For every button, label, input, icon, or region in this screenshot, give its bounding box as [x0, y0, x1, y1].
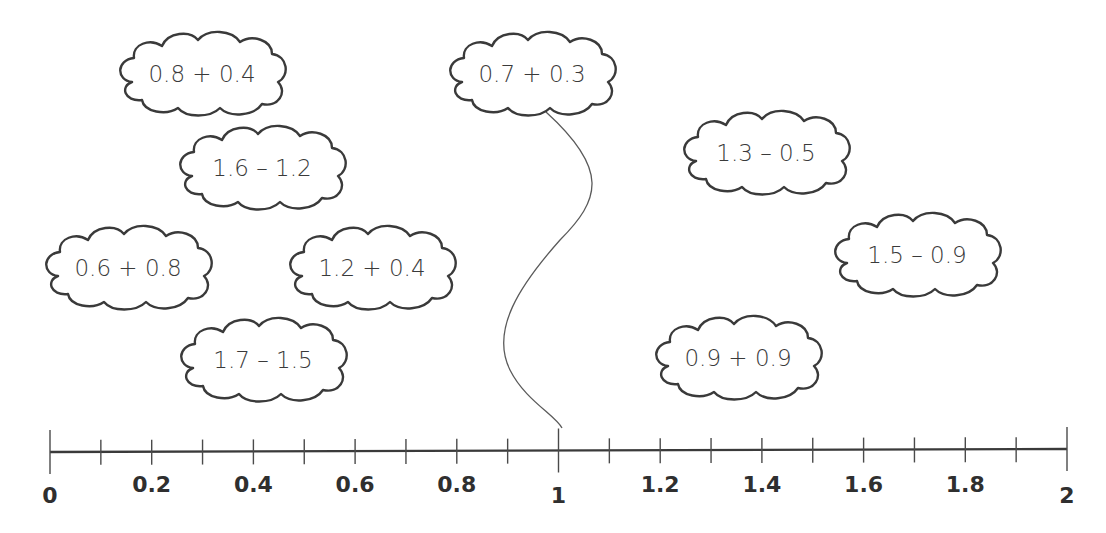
tick-labels: 00.20.40.60.811.21.41.61.82: [42, 472, 1074, 508]
tick-label: 0.6: [336, 472, 375, 497]
cloud-c5: 0.6 + 0.8: [46, 226, 211, 310]
tick-marks: [50, 427, 1067, 474]
tick-label: 1.8: [946, 472, 985, 497]
connector-line: [504, 112, 592, 428]
cloud-c1: 0.8 + 0.4: [120, 32, 285, 116]
number-line: 00.20.40.60.811.21.41.61.82: [42, 427, 1074, 508]
cloud-expression: 0.7 + 0.3: [478, 61, 585, 87]
cloud-expression: 1.7 – 1.5: [213, 347, 312, 373]
tick-label: 1.2: [641, 472, 680, 497]
cloud-expression: 1.2 + 0.4: [318, 255, 425, 281]
cloud-c8: 1.7 – 1.5: [181, 318, 346, 402]
cloud-c2: 0.7 + 0.3: [450, 32, 615, 116]
tick-label: 1: [551, 483, 566, 508]
cloud-c9: 0.9 + 0.9: [656, 316, 821, 400]
cloud-expressions: 0.8 + 0.40.7 + 0.31.6 – 1.21.3 – 0.50.6 …: [46, 32, 1000, 402]
cloud-expression: 1.5 – 0.9: [867, 242, 966, 268]
tick-label: 0: [42, 483, 57, 508]
tick-label: 2: [1059, 483, 1074, 508]
tick-label: 1.4: [742, 472, 781, 497]
cloud-expression: 1.3 – 0.5: [716, 140, 815, 166]
cloud-c7: 1.5 – 0.9: [835, 213, 1000, 297]
tick-label: 1.6: [844, 472, 883, 497]
cloud-expression: 0.9 + 0.9: [684, 345, 791, 371]
tick-label: 0.4: [234, 472, 273, 497]
cloud-expression: 0.8 + 0.4: [148, 61, 255, 87]
cloud-c6: 1.2 + 0.4: [290, 226, 455, 310]
tick-label: 0.8: [437, 472, 476, 497]
cloud-c4: 1.3 – 0.5: [684, 111, 849, 195]
tick-label: 0.2: [132, 472, 171, 497]
cloud-c3: 1.6 – 1.2: [180, 126, 345, 210]
cloud-expression: 1.6 – 1.2: [212, 155, 311, 181]
number-line-diagram: 00.20.40.60.811.21.41.61.82 0.8 + 0.40.7…: [0, 0, 1106, 533]
cloud-expression: 0.6 + 0.8: [74, 255, 181, 281]
